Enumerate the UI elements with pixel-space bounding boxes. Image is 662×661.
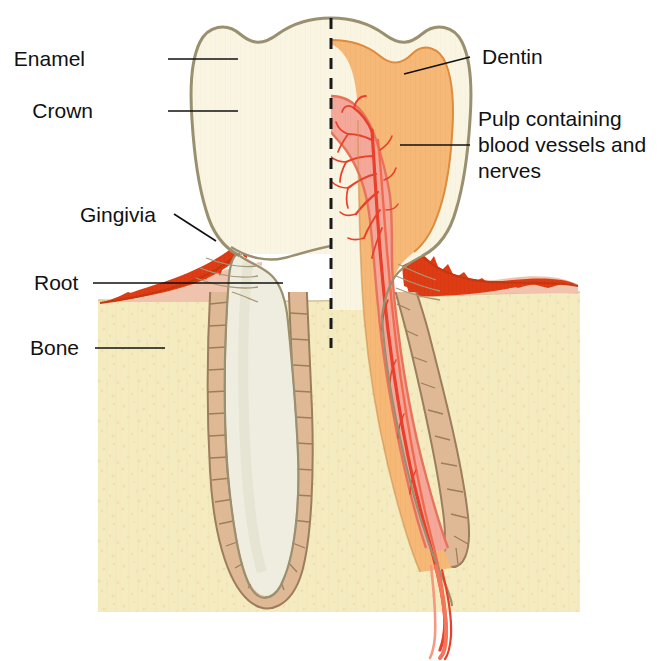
label-pulp-line1: Pulp containing: [478, 107, 622, 130]
label-gingivia: Gingivia: [80, 203, 156, 226]
bone-region: [98, 292, 580, 612]
label-bone: Bone: [30, 336, 79, 359]
label-pulp-line2: blood vessels and: [478, 133, 646, 156]
label-crown: Crown: [32, 99, 93, 122]
label-enamel: Enamel: [14, 47, 85, 70]
label-dentin: Dentin: [482, 45, 543, 68]
label-pulp-line3: nerves: [478, 159, 541, 182]
tooth-anatomy-figure: Enamel Crown Gingivia Root Bone Dentin P…: [0, 0, 662, 661]
label-root: Root: [34, 271, 79, 294]
